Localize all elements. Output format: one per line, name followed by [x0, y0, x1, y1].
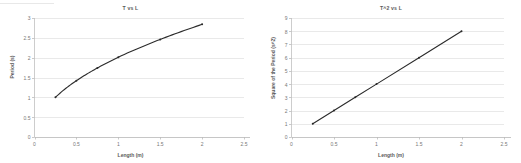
- y-axis-title: Period (s): [9, 31, 15, 103]
- y-tick-label: 9: [266, 15, 288, 21]
- y-tick-label: 3: [266, 95, 288, 101]
- y-tick-label: 3: [9, 15, 31, 21]
- y-tick-label: 6: [266, 55, 288, 61]
- y-tick-label: 4: [266, 82, 288, 88]
- y-tick-label: 2: [266, 108, 288, 114]
- y-tick-label: 0.5: [9, 115, 31, 121]
- x-tick-label: 1.5: [408, 141, 430, 147]
- x-tick-label: 2.5: [493, 141, 515, 147]
- y-tick-label: 8: [266, 29, 288, 35]
- figure-canvas: T vs L 00.511.522.53 00.511.522.5 Period…: [0, 0, 521, 163]
- x-tick-label: 0: [281, 141, 303, 147]
- x-tick-label: 0.5: [323, 141, 345, 147]
- plot-area-t2-vs-l: [261, 0, 521, 163]
- x-tick-label: 1.5: [149, 141, 171, 147]
- x-tick-label: 2: [451, 141, 473, 147]
- y-axis-title: Square of the Period (s^2): [270, 13, 276, 123]
- chart-t2-vs-l: T^2 vs L 0123456789 00.511.522.5 Square …: [261, 0, 521, 163]
- y-tick-label: 0: [266, 134, 288, 140]
- x-tick-label: 1: [366, 141, 388, 147]
- series-line: [313, 31, 462, 124]
- y-tick-label: 0: [9, 134, 31, 140]
- x-axis-title: Length (m): [0, 152, 261, 158]
- x-tick-label: 2.5: [233, 141, 255, 147]
- x-tick-label: 1: [107, 141, 129, 147]
- x-tick-label: 0: [24, 141, 46, 147]
- chart-t-vs-l: T vs L 00.511.522.53 00.511.522.5 Period…: [0, 0, 261, 163]
- x-axis-title: Length (m): [261, 152, 521, 158]
- y-tick-label: 1: [266, 121, 288, 127]
- y-tick-label: 5: [266, 68, 288, 74]
- series-markers: [54, 23, 203, 98]
- y-tick-label: 7: [266, 42, 288, 48]
- series-line: [55, 24, 202, 97]
- x-tick-label: 2: [191, 141, 213, 147]
- gridlines: [35, 19, 245, 118]
- x-tick-label: 0.5: [65, 141, 87, 147]
- plot-area-t-vs-l: [0, 0, 261, 163]
